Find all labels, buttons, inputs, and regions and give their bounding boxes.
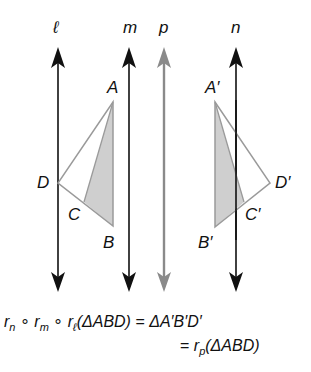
equals-sign: =	[180, 337, 189, 354]
compose-operator: ∘	[20, 313, 30, 330]
equals-sign: =	[135, 313, 144, 330]
shaded-triangle-abc-prime	[215, 102, 244, 227]
equation-line-2: = rp(ΔABD)	[180, 337, 260, 357]
label-vertex-c-prime: C′	[245, 205, 261, 224]
eq-argument: (ΔABD)	[77, 313, 131, 330]
label-line-m: m	[123, 18, 137, 37]
eq-image-triangle: ΔA′B′D′	[149, 313, 202, 330]
label-vertex-d-prime: D′	[275, 173, 291, 192]
label-vertex-d: D	[37, 173, 49, 192]
label-vertex-a: A	[106, 78, 118, 97]
label-line-l: ℓ	[52, 18, 59, 37]
label-line-n: n	[231, 18, 240, 37]
compose-operator: ∘	[53, 313, 63, 330]
line-p	[157, 47, 171, 292]
line-l	[51, 47, 65, 292]
triangle-a-b-d-prime	[215, 102, 270, 227]
eq-argument: (ΔABD)	[205, 337, 259, 354]
eq-subscript-n: n	[9, 321, 15, 333]
label-vertex-c: C	[68, 205, 81, 224]
label-line-p: p	[158, 18, 168, 37]
equation-line-1: rn ∘ rm ∘ rℓ(ΔABD) = ΔA′B′D′	[4, 312, 202, 333]
line-m	[122, 47, 136, 292]
triangle-abd	[58, 102, 113, 226]
eq-subscript-m: m	[40, 321, 49, 333]
label-vertex-b: B	[103, 233, 114, 252]
label-vertex-a-prime: A′	[204, 78, 220, 97]
label-vertex-b-prime: B′	[198, 233, 213, 252]
